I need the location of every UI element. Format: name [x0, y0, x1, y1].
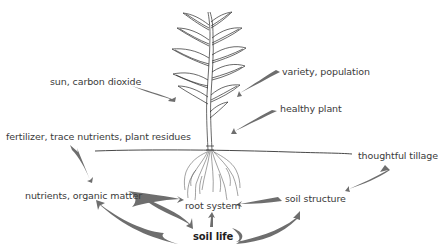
label-thoughtful-tillage: thoughtful tillage — [358, 150, 438, 161]
arrow-structure-to-root — [236, 197, 282, 207]
label-soil-structure: soil structure — [285, 193, 346, 204]
label-fertilizer: fertilizer, trace nutrients, plant resid… — [6, 131, 191, 142]
plant-icon — [172, 12, 246, 150]
label-root-system: root system — [185, 200, 240, 211]
arrow-variety-to-plant — [237, 70, 280, 97]
arrow-tillage-to-structure — [345, 165, 390, 192]
label-soil-life: soil life — [193, 231, 233, 242]
roots-icon — [184, 151, 240, 200]
label-healthy-plant: healthy plant — [280, 103, 342, 114]
ground-line — [95, 150, 352, 154]
arrow-soillife-to-structure — [232, 211, 300, 244]
arrow-healthy-to-plant — [231, 110, 277, 134]
arrow-sun-to-plant — [132, 86, 176, 102]
label-sun-carbon-dioxide: sun, carbon dioxide — [50, 76, 141, 87]
arrow-soillife-to-root — [208, 212, 215, 227]
label-variety-population: variety, population — [282, 66, 370, 77]
arrow-fertilizer-to-nutrients — [70, 145, 93, 183]
arrow-soillife-to-nutrients — [96, 200, 178, 244]
arrows — [70, 70, 390, 244]
label-nutrients-organic-matter: nutrients, organic matter — [25, 190, 142, 201]
